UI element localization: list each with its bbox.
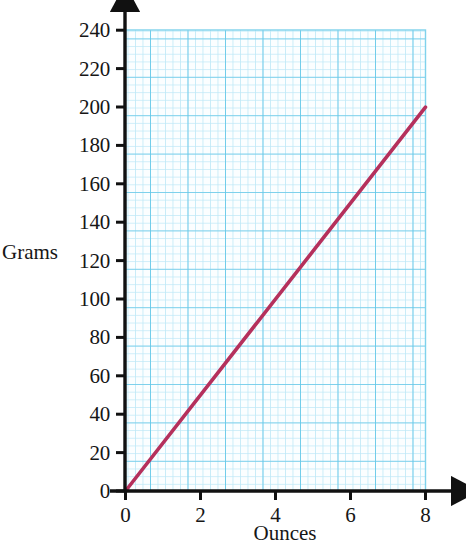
y-tick-label-20: 20 [58, 440, 110, 465]
x-tick-label-0: 0 [120, 503, 130, 528]
x-tick-label-6: 6 [345, 503, 355, 528]
y-tick-label-60: 60 [58, 363, 110, 388]
x-tick-label-8: 8 [420, 503, 430, 528]
y-tick-label-240: 240 [58, 18, 110, 43]
plot-area [126, 30, 426, 491]
y-axis-title: Grams [2, 240, 58, 265]
y-tick-label-180: 180 [58, 133, 110, 158]
graph-figure: 240 220 200 180 160 140 120 100 80 60 40… [0, 0, 466, 545]
y-tick-label-100: 100 [58, 287, 110, 312]
y-tick-label-160: 160 [58, 171, 110, 196]
y-tick-label-0: 0 [58, 479, 110, 504]
y-tick-label-140: 140 [58, 210, 110, 235]
y-tick-label-200: 200 [58, 95, 110, 120]
y-axis [116, 9, 125, 492]
y-tick-label-80: 80 [58, 325, 110, 350]
x-tick-label-2: 2 [195, 503, 205, 528]
y-tick-label-120: 120 [58, 248, 110, 273]
x-axis [110, 491, 454, 500]
x-axis-title: Ounces [254, 521, 317, 545]
y-tick-label-40: 40 [58, 402, 110, 427]
y-tick-label-220: 220 [58, 56, 110, 81]
